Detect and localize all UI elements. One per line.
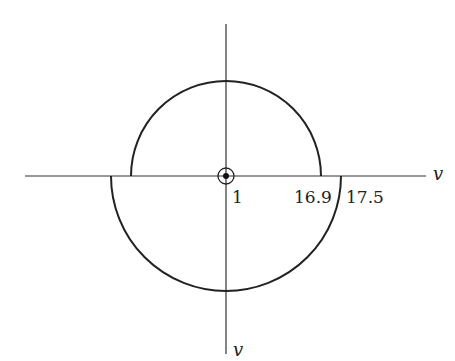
outer-radius-label: 17.5: [346, 187, 384, 207]
origin-dot-icon: [223, 173, 229, 179]
origin-label: 1: [232, 187, 243, 207]
inner-radius-label: 16.9: [294, 187, 332, 207]
diagram-canvas: 1 16.9 17.5 v v: [0, 0, 455, 361]
horizontal-axis-label: v: [433, 163, 443, 184]
vertical-axis-label: v: [233, 339, 243, 360]
